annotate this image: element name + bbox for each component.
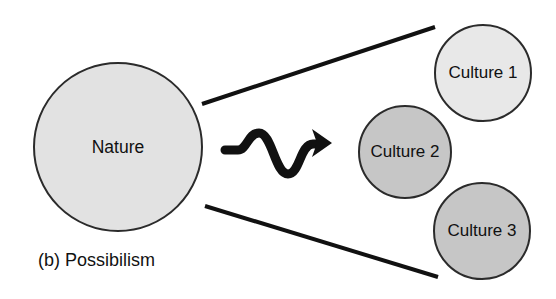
node-culture-3[interactable]: Culture 3 xyxy=(434,183,530,279)
node-culture-2[interactable]: Culture 2 xyxy=(359,106,451,198)
nature-label: Nature xyxy=(92,137,145,157)
node-culture-1[interactable]: Culture 1 xyxy=(435,25,531,121)
wavy-arrow-path xyxy=(225,133,318,174)
possibilism-diagram: Nature Culture 1 Culture 2 Culture 3 (b)… xyxy=(0,0,556,299)
culture-1-label: Culture 1 xyxy=(449,63,518,82)
node-nature[interactable]: Nature xyxy=(34,63,202,231)
diagram-canvas: Nature Culture 1 Culture 2 Culture 3 (b)… xyxy=(0,0,556,299)
lower-divergence-line xyxy=(205,206,438,277)
upper-divergence-line xyxy=(202,27,435,104)
culture-3-label: Culture 3 xyxy=(448,221,517,240)
figure-caption: (b) Possibilism xyxy=(38,250,155,270)
culture-2-label: Culture 2 xyxy=(371,142,440,161)
wavy-influence-arrow xyxy=(225,129,332,174)
